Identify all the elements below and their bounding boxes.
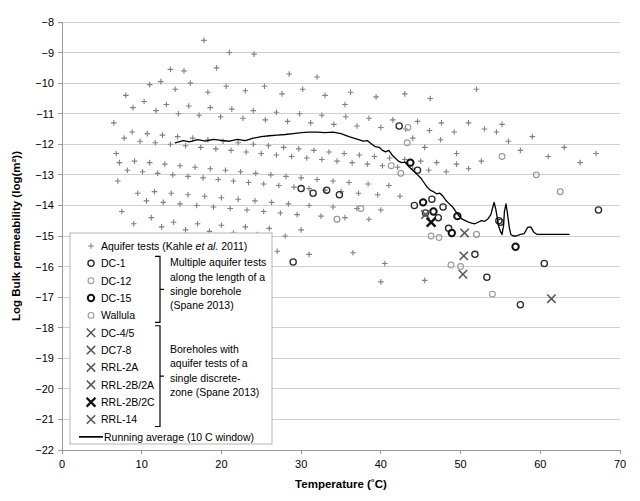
data-point: [372, 154, 378, 160]
data-point: [195, 221, 201, 227]
data-point: [396, 123, 402, 129]
data-point: [297, 111, 303, 117]
data-point: [378, 207, 384, 213]
data-point: [141, 99, 147, 105]
legend-group-line: Multiple aquifer tests: [170, 256, 266, 268]
data-point: [386, 183, 392, 189]
data-point: [427, 96, 433, 102]
data-point: [397, 193, 403, 199]
data-point: [342, 102, 348, 108]
data-point: [231, 178, 237, 184]
data-point: [117, 160, 123, 166]
data-point: [115, 178, 121, 184]
data-point: [172, 86, 178, 92]
data-point: [168, 190, 174, 196]
data-point: [291, 184, 297, 190]
data-point: [426, 167, 432, 173]
data-point: [159, 224, 165, 230]
data-point: [378, 279, 384, 285]
data-point: [346, 180, 352, 186]
data-point: [422, 278, 428, 284]
legend-label: RRL-2A: [101, 361, 138, 373]
data-point: [215, 177, 221, 183]
data-point: [314, 74, 320, 80]
data-point: [274, 152, 280, 158]
data-point: [160, 132, 166, 138]
data-point: [198, 145, 204, 151]
data-point: [205, 90, 211, 96]
data-point: [518, 148, 524, 154]
data-point: [164, 102, 170, 108]
data-point: [306, 252, 312, 258]
data-point: [460, 252, 468, 260]
legend-label: DC7-8: [101, 344, 132, 356]
data-point: [331, 122, 337, 128]
data-point: [466, 120, 472, 126]
data-point: [410, 135, 416, 141]
data-point: [111, 120, 117, 126]
data-point: [366, 116, 372, 122]
data-point: [170, 172, 176, 178]
data-point: [454, 161, 460, 167]
data-point: [311, 148, 317, 154]
legend-item-aquifer-tests-kahle[interactable]: Aquifer tests (Kahle et al. 2011): [88, 240, 247, 252]
data-point: [223, 167, 229, 173]
data-point: [207, 105, 213, 111]
data-point: [545, 154, 551, 160]
data-point: [227, 50, 233, 56]
data-point: [274, 248, 280, 254]
data-point: [427, 128, 433, 134]
y-tick-label: −12: [35, 138, 54, 150]
series-dc-1: [290, 123, 602, 308]
legend-group-line: single borehole: [170, 285, 241, 297]
legend-item-running-average-10-c-window[interactable]: Running average (10 C window): [79, 431, 254, 443]
data-point: [152, 189, 158, 195]
data-point: [490, 291, 496, 297]
data-point: [183, 227, 189, 233]
data-point: [119, 209, 125, 215]
data-point: [343, 114, 349, 120]
data-point: [398, 170, 404, 176]
data-point: [286, 71, 292, 77]
data-point: [240, 116, 246, 122]
data-point: [530, 134, 536, 140]
data-point: [137, 138, 143, 144]
series-rrl-2a: [460, 252, 468, 260]
data-point: [382, 261, 388, 267]
legend-label: Running average (10 C window): [104, 431, 254, 443]
data-point: [251, 108, 257, 114]
data-point: [276, 183, 282, 189]
data-point: [459, 270, 467, 278]
data-point: [448, 262, 454, 268]
data-point: [296, 146, 302, 152]
data-point: [262, 83, 268, 89]
y-tick-label: −11: [36, 108, 54, 120]
data-point: [123, 93, 129, 99]
data-point: [213, 146, 219, 152]
legend-label: RRL-2B/2A: [101, 379, 154, 391]
data-point: [243, 149, 249, 155]
data-point: [132, 158, 138, 164]
data-point: [348, 90, 354, 96]
data-point: [171, 219, 177, 225]
y-tick-label: −10: [35, 77, 54, 89]
series-rrl-2b-2a: [459, 270, 467, 278]
data-point: [290, 259, 296, 265]
data-point: [162, 161, 168, 167]
data-point: [186, 103, 192, 109]
data-point: [365, 181, 371, 187]
data-point: [223, 83, 229, 89]
data-point: [310, 190, 316, 196]
data-point: [388, 163, 394, 169]
legend-label: RRL-14: [101, 413, 137, 425]
data-point: [474, 86, 480, 92]
data-point: [341, 151, 347, 157]
data-point: [443, 169, 449, 175]
y-tick-label: −13: [35, 169, 54, 181]
y-tick-label: −19: [35, 352, 54, 364]
data-point: [380, 163, 386, 169]
data-point: [130, 105, 136, 111]
data-point: [517, 302, 523, 308]
y-tick-label: −15: [35, 230, 54, 242]
y-tick-label: −8: [41, 16, 54, 28]
